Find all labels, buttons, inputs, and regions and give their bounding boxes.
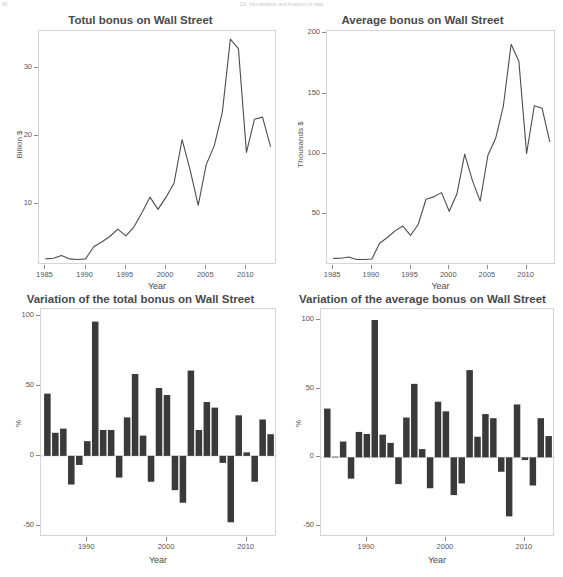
plot-area-variation-total-bonus	[40, 308, 276, 536]
page-header: 96 Ch. Visualization and Analysis of dat…	[0, 0, 563, 9]
y-tick-label: 30	[4, 62, 32, 71]
x-tick-label: 2010	[510, 270, 542, 279]
y-tick-label: 100	[292, 148, 320, 157]
y-tick-mark	[34, 203, 38, 204]
x-tick-mark	[125, 265, 126, 269]
x-tick-label: 2000	[150, 542, 182, 551]
plot-area-total-bonus	[38, 30, 276, 264]
x-tick-label: 2000	[432, 270, 464, 279]
y-axis-label-variation-average-bonus: %	[294, 414, 303, 434]
x-tick-mark	[410, 265, 411, 269]
y-tick-mark	[36, 315, 40, 316]
y-axis-label-average-bonus: Thousands $	[296, 110, 305, 180]
x-tick-mark	[366, 537, 367, 541]
x-tick-mark	[332, 265, 333, 269]
y-axis-label-total-bonus: Billion $	[15, 115, 24, 175]
bar-series-variation-total-bonus	[41, 309, 277, 537]
plot-area-variation-average-bonus	[320, 308, 554, 536]
y-tick-mark	[316, 388, 320, 389]
x-tick-label: 2000	[429, 542, 461, 551]
chart-title-variation-total-bonus: Variation of the total bonus on Wall Str…	[0, 293, 281, 305]
x-tick-label: 1995	[394, 270, 426, 279]
x-axis-label-total-bonus: Year	[38, 281, 276, 291]
y-tick-label: -50	[286, 520, 314, 529]
x-tick-mark	[526, 265, 527, 269]
x-tick-label: 2010	[229, 270, 261, 279]
chart-title-average-bonus: Average bonus on Wall Street	[282, 14, 563, 26]
y-tick-label: 200	[292, 27, 320, 36]
x-tick-mark	[246, 537, 247, 541]
y-tick-mark	[316, 319, 320, 320]
x-axis-label-average-bonus: Year	[326, 281, 555, 291]
y-tick-mark	[316, 525, 320, 526]
panel-variation-total-bonus: Variation of the total bonus on Wall Str…	[0, 293, 281, 577]
y-tick-label: -50	[6, 520, 34, 529]
chart-title-variation-average-bonus: Variation of the average bonus on Wall S…	[282, 293, 563, 305]
line-series-average-bonus	[327, 31, 556, 265]
y-tick-label: 100	[6, 310, 34, 319]
x-tick-mark	[44, 265, 45, 269]
x-tick-mark	[86, 537, 87, 541]
x-tick-label: 1990	[350, 542, 382, 551]
x-tick-label: 2005	[471, 270, 503, 279]
line-series-total-bonus	[39, 31, 277, 265]
x-tick-mark	[165, 265, 166, 269]
plot-area-average-bonus	[326, 30, 555, 264]
bar-series-variation-average-bonus	[321, 309, 555, 537]
x-tick-mark	[371, 265, 372, 269]
x-tick-label: 1990	[69, 270, 101, 279]
y-tick-mark	[34, 67, 38, 68]
x-tick-mark	[524, 537, 525, 541]
x-tick-mark	[85, 265, 86, 269]
y-tick-label: 150	[292, 88, 320, 97]
panel-average-bonus: Average bonus on Wall Street Thousands $…	[282, 14, 563, 296]
y-tick-label: 0	[6, 450, 34, 459]
x-axis-label-variation-total-bonus: Year	[40, 555, 276, 565]
y-tick-mark	[322, 93, 326, 94]
x-tick-label: 2005	[189, 270, 221, 279]
y-tick-mark	[316, 456, 320, 457]
x-tick-mark	[166, 537, 167, 541]
y-tick-label: 50	[286, 383, 314, 392]
x-tick-mark	[445, 537, 446, 541]
x-tick-mark	[245, 265, 246, 269]
x-tick-label: 2010	[508, 542, 540, 551]
x-tick-mark	[448, 265, 449, 269]
y-tick-label: 50	[6, 380, 34, 389]
x-tick-label: 1990	[355, 270, 387, 279]
x-tick-mark	[487, 265, 488, 269]
y-tick-label: 100	[286, 314, 314, 323]
x-axis-label-variation-average-bonus: Year	[320, 555, 554, 565]
panel-variation-average-bonus: Variation of the average bonus on Wall S…	[282, 293, 563, 577]
y-axis-label-variation-total-bonus: %	[14, 414, 23, 434]
y-tick-label: 20	[4, 130, 32, 139]
running-head: Ch. Visualization and Analysis of data	[0, 0, 563, 9]
x-tick-label: 1990	[70, 542, 102, 551]
x-tick-label: 2010	[230, 542, 262, 551]
y-tick-mark	[322, 213, 326, 214]
y-tick-mark	[36, 525, 40, 526]
y-tick-mark	[36, 385, 40, 386]
panel-total-bonus: Totul bonus on Wall Street Billion $ Yea…	[0, 14, 281, 296]
x-tick-label: 1985	[28, 270, 60, 279]
x-tick-mark	[205, 265, 206, 269]
x-tick-label: 1985	[316, 270, 348, 279]
y-tick-mark	[36, 455, 40, 456]
x-tick-label: 1995	[109, 270, 141, 279]
y-tick-mark	[322, 153, 326, 154]
chart-title-total-bonus: Totul bonus on Wall Street	[0, 14, 281, 26]
y-tick-mark	[322, 32, 326, 33]
y-tick-mark	[34, 135, 38, 136]
x-tick-label: 2000	[149, 270, 181, 279]
y-tick-label: 50	[292, 208, 320, 217]
y-tick-label: 10	[4, 198, 32, 207]
y-tick-label: 0	[286, 451, 314, 460]
